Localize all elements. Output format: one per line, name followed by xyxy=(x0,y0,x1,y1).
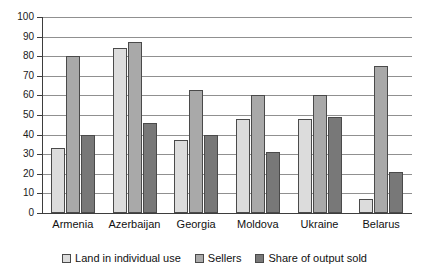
x-tick-label-azerbaijan: Azerbaijan xyxy=(104,218,166,231)
x-tick-label-moldova: Moldova xyxy=(227,218,289,231)
gridline-10 xyxy=(42,193,412,194)
bar-group-belarus xyxy=(359,17,403,213)
y-tick-mark-80 xyxy=(37,56,42,57)
y-tick-mark-40 xyxy=(37,135,42,136)
bar-ukraine-sellers xyxy=(313,95,327,213)
y-tick-label-40: 40 xyxy=(2,130,34,140)
bar-moldova-sellers xyxy=(251,95,265,213)
y-tick-label-10: 10 xyxy=(2,188,34,198)
bar-belarus-share-of-output-sold xyxy=(389,172,403,213)
y-axis-line xyxy=(42,17,43,213)
gridline-30 xyxy=(42,154,412,155)
bar-moldova-land-in-individual-use xyxy=(236,119,250,213)
bar-ukraine-share-of-output-sold xyxy=(328,117,342,213)
bar-group-azerbaijan xyxy=(113,17,157,213)
bar-armenia-share-of-output-sold xyxy=(81,135,95,213)
bar-chart: 1009080706050403020100 ArmeniaAzerbaijan… xyxy=(0,0,429,273)
gridline-90 xyxy=(42,37,412,38)
chart-legend: Land in individual useSellersShare of ou… xyxy=(0,243,429,273)
legend-item-share-of-output-sold[interactable]: Share of output sold xyxy=(255,252,366,264)
bar-georgia-land-in-individual-use xyxy=(174,140,188,213)
x-tick-label-georgia: Georgia xyxy=(165,218,227,231)
y-tick-mark-50 xyxy=(37,115,42,116)
y-tick-label-90: 90 xyxy=(2,32,34,42)
y-tick-mark-10 xyxy=(37,193,42,194)
x-tick-label-belarus: Belarus xyxy=(350,218,412,231)
plot-area xyxy=(42,17,412,213)
y-tick-label-20: 20 xyxy=(2,169,34,179)
gridline-0 xyxy=(42,213,412,214)
bar-belarus-sellers xyxy=(374,66,388,213)
bar-georgia-share-of-output-sold xyxy=(204,135,218,213)
gridline-80 xyxy=(42,56,412,57)
y-tick-label-30: 30 xyxy=(2,149,34,159)
gridline-100 xyxy=(42,17,412,18)
y-tick-mark-20 xyxy=(37,174,42,175)
y-tick-mark-100 xyxy=(37,17,42,18)
bar-group-armenia xyxy=(51,17,95,213)
bar-belarus-land-in-individual-use xyxy=(359,199,373,213)
bar-moldova-share-of-output-sold xyxy=(266,152,280,213)
bar-azerbaijan-land-in-individual-use xyxy=(113,48,127,213)
y-tick-mark-70 xyxy=(37,76,42,77)
y-tick-label-60: 60 xyxy=(2,90,34,100)
gridline-40 xyxy=(42,135,412,136)
y-tick-label-80: 80 xyxy=(2,51,34,61)
x-tick-label-ukraine: Ukraine xyxy=(289,218,351,231)
bar-azerbaijan-sellers xyxy=(128,42,142,213)
y-tick-mark-90 xyxy=(37,37,42,38)
bar-armenia-land-in-individual-use xyxy=(51,148,65,213)
legend-swatch-icon xyxy=(195,254,204,263)
legend-item-sellers[interactable]: Sellers xyxy=(195,252,242,264)
bar-armenia-sellers xyxy=(66,56,80,213)
bar-azerbaijan-share-of-output-sold xyxy=(143,123,157,213)
y-tick-label-50: 50 xyxy=(2,110,34,120)
legend-label: Share of output sold xyxy=(268,252,366,264)
legend-label: Land in individual use xyxy=(75,252,181,264)
legend-label: Sellers xyxy=(208,252,242,264)
bar-group-ukraine xyxy=(298,17,342,213)
y-tick-mark-60 xyxy=(37,95,42,96)
legend-item-land-in-individual-use[interactable]: Land in individual use xyxy=(62,252,181,264)
legend-swatch-icon xyxy=(62,254,71,263)
gridline-60 xyxy=(42,95,412,96)
y-tick-mark-0 xyxy=(37,213,42,214)
gridline-70 xyxy=(42,76,412,77)
y-tick-label-70: 70 xyxy=(2,71,34,81)
y-tick-mark-30 xyxy=(37,154,42,155)
y-axis: 1009080706050403020100 xyxy=(0,0,34,273)
x-tick-label-armenia: Armenia xyxy=(42,218,104,231)
gridline-20 xyxy=(42,174,412,175)
bar-georgia-sellers xyxy=(189,90,203,213)
legend-swatch-icon xyxy=(255,254,264,263)
y-tick-label-0: 0 xyxy=(2,208,34,218)
y-tick-label-100: 100 xyxy=(2,12,34,22)
gridline-50 xyxy=(42,115,412,116)
bar-ukraine-land-in-individual-use xyxy=(298,119,312,213)
bar-group-georgia xyxy=(174,17,218,213)
bar-group-moldova xyxy=(236,17,280,213)
